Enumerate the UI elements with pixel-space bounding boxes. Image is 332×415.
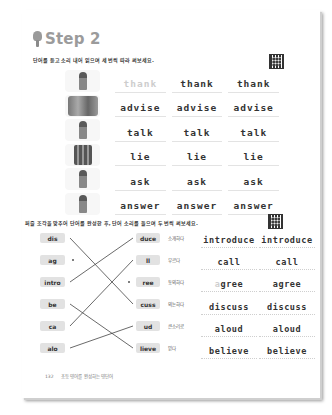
right-piece[interactable]: duce — [136, 233, 160, 243]
write-cell[interactable]: talk — [115, 123, 166, 142]
write-row: introduce introduce — [200, 230, 316, 252]
right-piece[interactable]: ud — [136, 321, 160, 331]
write-cell[interactable]: aloud — [201, 324, 257, 337]
meaning-label: 동의하다 — [168, 279, 184, 285]
write-cell[interactable]: advise — [115, 98, 166, 117]
tracing-row: talk talk talk — [112, 120, 282, 145]
tracing-row: ask ask ask — [112, 169, 282, 194]
write-cell[interactable]: answer — [228, 196, 279, 215]
left-piece[interactable]: dis — [40, 233, 65, 243]
right-piece[interactable]: lieve — [136, 343, 160, 353]
write-cell[interactable]: lie — [115, 147, 166, 166]
picture-ask — [65, 168, 100, 190]
left-piece[interactable]: ag — [40, 255, 65, 265]
write-row: believe believe — [200, 341, 316, 363]
write-cell[interactable]: lie — [172, 147, 223, 166]
write-cell[interactable]: call — [259, 257, 315, 270]
right-piece[interactable]: cuss — [136, 299, 160, 309]
left-piece[interactable]: alo — [40, 343, 65, 353]
write-row: discuss discuss — [200, 297, 316, 319]
write-cell[interactable]: answer — [115, 196, 166, 215]
meaning-label: 의논하다 — [168, 301, 184, 307]
step-title: Step 2 — [45, 30, 101, 48]
right-piece[interactable]: ll — [136, 255, 160, 265]
write-cell[interactable]: talk — [172, 123, 223, 142]
picture-advise — [65, 95, 100, 117]
qr-code-icon[interactable] — [269, 54, 284, 69]
write-cell[interactable]: agree — [259, 279, 315, 292]
write-row: call call — [200, 252, 316, 274]
picture-column — [65, 70, 100, 217]
right-piece[interactable]: ree — [136, 277, 160, 287]
connector-dot[interactable] — [72, 259, 74, 261]
write-cell[interactable]: ask — [115, 172, 166, 191]
tracing-grid: thank thank thank advise advise advise t… — [112, 71, 282, 218]
write-cell[interactable]: introduce — [259, 235, 315, 248]
meaning-label: 부르다 — [168, 257, 180, 263]
write-cell[interactable]: believe — [259, 346, 315, 359]
write-cell[interactable]: ask — [228, 172, 279, 191]
meaning-label: 큰소리로 — [168, 323, 184, 329]
left-piece[interactable]: be — [40, 299, 65, 309]
write-cell[interactable]: ask — [172, 172, 223, 191]
tracing-row: lie lie lie — [112, 145, 282, 170]
left-piece[interactable]: ca — [40, 321, 65, 331]
write-cell[interactable]: introduce — [201, 235, 257, 248]
write-cell[interactable]: aloud — [259, 324, 315, 337]
write-cell[interactable]: answer — [172, 196, 223, 215]
meaning-label: 소개하다 — [168, 235, 184, 241]
write-cell[interactable]: advise — [172, 98, 223, 117]
write-row: aloud aloud — [200, 319, 316, 341]
write-cell[interactable]: call — [201, 257, 257, 270]
write-cell[interactable]: lie — [228, 147, 279, 166]
puzzle-matching: dis ag intro be ca alo duce ll ree cuss … — [40, 233, 200, 363]
write-row: agree agree — [200, 275, 316, 297]
picture-answer — [65, 193, 100, 215]
write-twice-grid: introduce introduce call call agree agre… — [200, 230, 316, 364]
write-cell[interactable]: advise — [228, 98, 279, 117]
page-footer: 132 초등 영어를 완성하는 영단어 — [45, 373, 113, 379]
picture-lie — [65, 144, 100, 166]
write-cell[interactable]: thank — [228, 74, 279, 93]
write-cell[interactable]: discuss — [259, 302, 315, 315]
step-header: Step 2 — [33, 30, 101, 48]
write-cell[interactable]: thank — [172, 74, 223, 93]
trace-cell[interactable]: thank — [115, 74, 166, 93]
footer-text: 초등 영어를 완성하는 영단어 — [61, 374, 113, 379]
connector-dot[interactable] — [128, 281, 130, 283]
lightbulb-icon — [33, 31, 42, 47]
picture-talk — [65, 119, 100, 141]
tracing-row: advise advise advise — [112, 96, 282, 121]
write-cell[interactable]: discuss — [201, 302, 257, 315]
tracing-row: answer answer answer — [112, 194, 282, 219]
left-piece[interactable]: intro — [40, 277, 65, 287]
picture-thank — [65, 70, 100, 92]
section2-instruction: 퍼즐 조각을 맞추어 단어를 완성한 후, 단어 소리를 들으며 두 번씩 써보… — [25, 219, 198, 226]
qr-code-icon[interactable] — [268, 214, 283, 229]
write-cell[interactable]: agree — [201, 279, 257, 292]
write-cell[interactable]: talk — [228, 123, 279, 142]
section1-instruction: 단어를 듣고 소리 내어 읽으며 세 번씩 따라 써보세요. — [33, 56, 154, 63]
meaning-label: 믿다 — [168, 345, 176, 351]
tracing-row: thank thank thank — [112, 71, 282, 96]
page-number: 132 — [45, 374, 54, 379]
write-cell[interactable]: believe — [201, 346, 257, 359]
